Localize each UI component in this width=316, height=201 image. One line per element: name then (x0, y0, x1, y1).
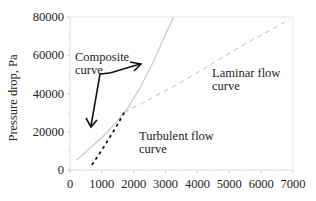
annotation-label: Laminar flowcurve (212, 66, 280, 93)
x-tick-label: 2000 (121, 177, 146, 191)
x-tick-label: 3000 (153, 177, 178, 191)
y-tick-label: 0 (58, 163, 64, 177)
arrow-down-line (91, 73, 110, 126)
y-tick-label: 80000 (33, 10, 64, 24)
y-axis-label: Pressure drop, Pa (6, 54, 20, 142)
x-tick-label: 1000 (89, 177, 114, 191)
x-tick-label: 4000 (185, 177, 210, 191)
axes: 0100020003000400050006000700002000040000… (33, 10, 306, 191)
annotations: CompositecurveLaminar flowcurveTurbulent… (75, 50, 280, 156)
annotation-label: Turbulent flowcurve (139, 129, 214, 156)
y-tick-label: 60000 (33, 48, 64, 62)
x-tick-label: 0 (67, 177, 73, 191)
x-tick-label: 5000 (217, 177, 242, 191)
pressure-drop-chart: 0100020003000400050006000700002000040000… (0, 0, 316, 201)
x-tick-label: 6000 (249, 177, 274, 191)
y-tick-label: 40000 (33, 87, 64, 101)
x-tick-label: 7000 (281, 177, 306, 191)
y-tick-label: 20000 (33, 125, 64, 139)
annotation-label: Compositecurve (75, 50, 130, 77)
